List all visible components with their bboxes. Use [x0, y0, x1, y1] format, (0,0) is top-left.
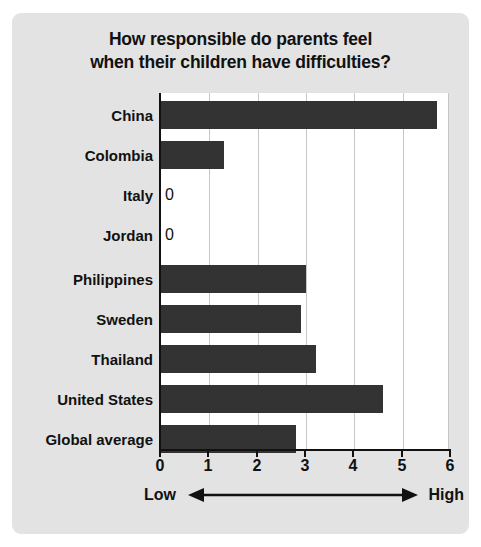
bar-row: Italy 0	[161, 181, 449, 209]
x-tick-2	[256, 449, 258, 457]
chart-title: How responsible do parents feel when the…	[12, 28, 469, 74]
x-tick-label-6: 6	[446, 458, 455, 474]
value-label-jordan: 0	[165, 227, 174, 243]
bar-thailand[interactable]	[161, 345, 316, 373]
category-label-global-average: Global average	[45, 432, 153, 447]
category-label-italy: Italy	[123, 188, 153, 203]
category-label-jordan: Jordan	[103, 228, 153, 243]
x-tick-label-3: 3	[301, 458, 310, 474]
bar-row: China	[161, 101, 449, 129]
category-label-thailand: Thailand	[91, 352, 153, 367]
bar-united-states[interactable]	[161, 385, 383, 413]
x-tick-6	[449, 449, 451, 457]
category-label-colombia: Colombia	[85, 148, 153, 163]
chart-panel: How responsible do parents feel when the…	[12, 13, 469, 534]
bar-china[interactable]	[161, 101, 437, 129]
x-tick-label-4: 4	[349, 458, 358, 474]
plot-area: China Colombia Italy 0 Jordan 0 Philippi…	[159, 93, 449, 449]
bar-row: United States	[161, 385, 449, 413]
bar-row: Jordan 0	[161, 221, 449, 249]
x-tick-label-5: 5	[398, 458, 407, 474]
category-label-china: China	[111, 108, 153, 123]
bar-row: Philippines	[161, 265, 449, 293]
x-tick-label-0: 0	[156, 458, 165, 474]
chart-title-line-1: How responsible do parents feel	[12, 28, 469, 51]
plot-wrapper: China Colombia Italy 0 Jordan 0 Philippi…	[159, 93, 449, 449]
scale-annotation: Low High	[144, 485, 464, 509]
scale-high-label: High	[428, 485, 464, 505]
category-label-united-states: United States	[57, 392, 153, 407]
scale-low-label: Low	[144, 485, 176, 505]
bar-row: Colombia	[161, 141, 449, 169]
bar-sweden[interactable]	[161, 305, 301, 333]
x-tick-1	[207, 449, 209, 457]
bar-row: Thailand	[161, 345, 449, 373]
bar-philippines[interactable]	[161, 265, 306, 293]
bar-colombia[interactable]	[161, 141, 224, 169]
x-tick-3	[304, 449, 306, 457]
x-tick-label-1: 1	[204, 458, 213, 474]
chart-title-line-2: when their children have difficulties?	[12, 51, 469, 74]
x-tick-5	[401, 449, 403, 457]
bar-row: Sweden	[161, 305, 449, 333]
x-tick-0	[159, 449, 161, 457]
value-label-italy: 0	[165, 187, 174, 203]
x-tick-4	[352, 449, 354, 457]
category-label-sweden: Sweden	[96, 312, 153, 327]
x-tick-label-2: 2	[253, 458, 262, 474]
double-arrow-icon	[188, 487, 418, 503]
category-label-philippines: Philippines	[73, 272, 153, 287]
